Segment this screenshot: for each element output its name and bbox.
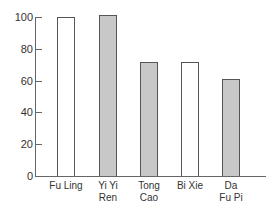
y-tick-label: 60 bbox=[21, 75, 33, 87]
bar-tong-cao bbox=[140, 62, 158, 176]
y-tick bbox=[36, 49, 42, 50]
x-tick-label-line: Ren bbox=[88, 192, 128, 204]
x-axis bbox=[35, 176, 266, 177]
y-tick-label: 0 bbox=[27, 170, 33, 182]
y-tick bbox=[36, 112, 42, 113]
bar-bi-xie bbox=[181, 62, 199, 176]
x-tick-label-line: Yi Yi bbox=[88, 180, 128, 192]
x-tick-label-line: Cao bbox=[129, 192, 169, 204]
y-tick-label: 100 bbox=[15, 11, 33, 23]
x-tick-label-line: Da bbox=[211, 180, 251, 192]
bar-da-fu-pi bbox=[222, 79, 240, 176]
x-tick-label: Bi Xie bbox=[170, 180, 210, 192]
x-tick-label-line: Fu Pi bbox=[211, 192, 251, 204]
y-tick bbox=[36, 17, 42, 18]
x-tick-label-line: Tong bbox=[129, 180, 169, 192]
x-tick-label: Fu Ling bbox=[46, 180, 86, 192]
bar-fu-ling bbox=[57, 17, 75, 176]
x-tick-label: DaFu Pi bbox=[211, 180, 251, 204]
bar-chart: 020406080100 Fu LingYi YiRenTongCaoBi Xi… bbox=[0, 0, 277, 211]
y-tick bbox=[36, 81, 42, 82]
x-tick-label-line: Fu Ling bbox=[46, 180, 86, 192]
y-axis bbox=[35, 17, 36, 177]
y-tick-label: 80 bbox=[21, 43, 33, 55]
y-tick-label: 40 bbox=[21, 106, 33, 118]
x-tick-label-line: Bi Xie bbox=[170, 180, 210, 192]
x-tick-label: Yi YiRen bbox=[88, 180, 128, 204]
y-tick bbox=[36, 144, 42, 145]
y-tick-label: 20 bbox=[21, 138, 33, 150]
bar-yi-yi-ren bbox=[99, 15, 117, 176]
y-tick bbox=[36, 176, 42, 177]
x-tick-label: TongCao bbox=[129, 180, 169, 204]
